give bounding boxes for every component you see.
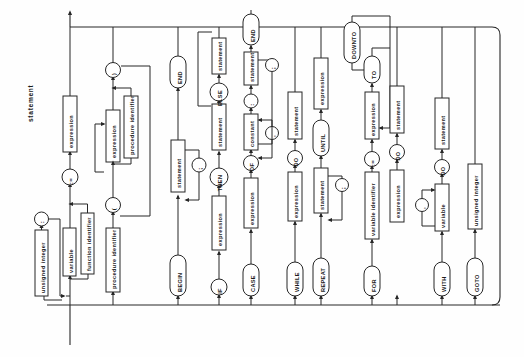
node-statement-for-text: statement <box>395 100 401 130</box>
node-statement-else-text: statement <box>217 41 223 71</box>
node-expression-if-text: expression <box>217 213 223 246</box>
node-repeat-text: REPEAT <box>320 267 326 292</box>
node-do-for-text: DO <box>395 151 401 160</box>
branch-while: WHILE expression DO statement <box>287 27 303 305</box>
node-procedure-identifier-arg-text: procedure identifier <box>129 95 135 155</box>
node-while-text: WHILE <box>294 272 300 292</box>
node-variable-text: variable <box>68 249 74 273</box>
branch-procedure-call: procedure identifier ( expression proced… <box>95 27 150 305</box>
node-constant-text: constant <box>249 121 255 147</box>
node-to-text: TO <box>371 70 377 79</box>
node-semicolon-compound-text: ; <box>196 167 203 169</box>
node-for-text: FOR <box>371 279 377 292</box>
node-unsigned-integer-goto-text: unsigned integer <box>473 175 479 226</box>
node-expression-for-start-text: expression <box>370 103 376 136</box>
branch-repeat: REPEAT statement ; UNTIL expression <box>313 27 349 305</box>
node-statement-repeat-text: statement <box>319 180 325 210</box>
node-statement-then-text: statement <box>217 117 223 147</box>
branch-goto: GOTO unsigned integer <box>467 27 483 305</box>
node-until-text: UNTIL <box>320 134 326 152</box>
node-statement-compound-text: statement <box>176 158 182 188</box>
node-expression-case-text: expression <box>249 192 255 225</box>
node-unsigned-integer-label-text: unsigned integer <box>40 242 46 293</box>
node-do-with-text: DO <box>440 166 446 175</box>
node-then-text: THEN <box>217 175 223 192</box>
node-comma-with-text: , <box>419 207 426 209</box>
node-colon-case-text: : <box>248 103 255 105</box>
node-colon-text: : <box>38 221 45 223</box>
syntax-railroad-svg: .ln{stroke:#262626;stroke-width:1;fill:n… <box>0 0 524 357</box>
node-assign-for-text: := <box>369 160 376 166</box>
node-expression-for-end-text: expression <box>395 185 401 218</box>
branch-compound: BEGIN statement ; END <box>170 27 206 305</box>
node-expression-while-text: expression <box>293 185 299 218</box>
node-statement-case-text: statement <box>249 52 255 82</box>
diagram-canvas: statement .ln{stroke:#262626;stroke-widt… <box>0 0 524 357</box>
node-expression-until-text: expression <box>319 72 325 105</box>
node-procedure-identifier-text: procedure identifier <box>111 229 117 289</box>
node-end-compound-text: END <box>177 71 183 84</box>
node-statement-with-text: statement <box>440 115 446 145</box>
node-function-identifier-text: function identifier <box>86 217 92 271</box>
node-end-case-text: END <box>250 29 256 42</box>
node-semicolon-repeat-text: ; <box>339 187 346 189</box>
branch-with: WITH variable , DO statement <box>416 27 451 305</box>
node-variable-identifier-text: variable identifier <box>370 183 376 236</box>
node-case-text: CASE <box>250 275 256 292</box>
node-with-text: WITH <box>441 276 447 292</box>
branch-assignment: variable function identifier := expressi… <box>62 27 94 290</box>
entry-rail <box>47 305 500 345</box>
node-goto-text: GOTO <box>474 274 480 292</box>
node-else-text: ELSE <box>217 90 223 106</box>
node-rparen-text: ) <box>110 73 117 75</box>
node-begin-text: BEGIN <box>177 273 183 292</box>
node-of-text: OF <box>249 163 255 172</box>
node-semicolon-case-text: ; <box>269 67 276 69</box>
node-variable-with-text: variable <box>440 204 446 228</box>
node-statement-while-text: statement <box>293 106 299 136</box>
node-assign-op-text: := <box>67 178 74 184</box>
node-if-text: IF <box>217 288 223 294</box>
node-downto-text: DOWNTO <box>351 31 357 59</box>
node-expression-call-text: expression <box>111 125 117 158</box>
node-expression-assign-text: expression <box>68 115 74 148</box>
node-do-while-text: DO <box>293 157 299 166</box>
branch-case: CASE expression OF constant , : statemen… <box>243 10 279 305</box>
branch-for: FOR variable identifier := expression TO… <box>344 16 405 305</box>
